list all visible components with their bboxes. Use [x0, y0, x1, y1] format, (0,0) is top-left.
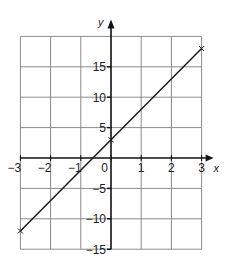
y-tick-label: 5: [99, 121, 106, 135]
y-axis-label: y: [97, 16, 105, 28]
y-axis-arrow-icon: [108, 19, 115, 28]
x-tick-label: −2: [38, 161, 52, 175]
x-tick-label: 3: [198, 161, 205, 175]
y-tick-label: 10: [93, 91, 107, 105]
y-tick-label: −15: [86, 243, 107, 257]
x-tick-label: −1: [68, 161, 82, 175]
x-axis-arrow-icon: [206, 155, 214, 162]
x-tick-label: 1: [138, 161, 145, 175]
y-tick-label: −10: [86, 212, 107, 226]
y-tick-label: 15: [93, 60, 107, 74]
x-tick-label: 2: [168, 161, 175, 175]
x-tick-label: −3: [8, 161, 22, 175]
y-tick-label: −5: [92, 182, 106, 196]
line-chart: −3−2−10123−15−10−551015 x y: [0, 0, 228, 264]
x-tick-label: 0: [101, 161, 108, 175]
x-axis-label: x: [213, 162, 220, 174]
